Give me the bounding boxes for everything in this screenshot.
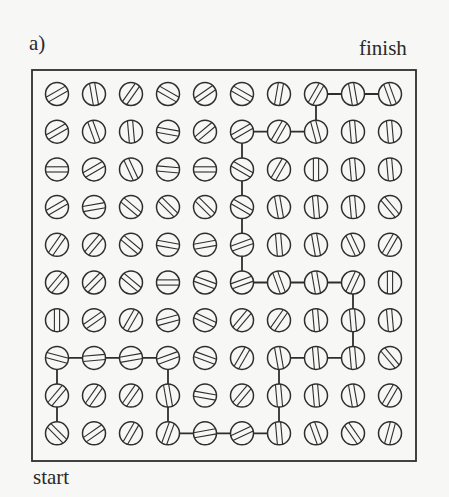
rotor-cell (120, 346, 143, 369)
rotor-cell (157, 271, 180, 294)
rotor-cell (379, 309, 402, 332)
rotor-cell (231, 158, 254, 181)
rotor-cell (83, 233, 106, 256)
rotor-cell (157, 346, 180, 369)
rotor-cell (268, 158, 291, 181)
rotor-cell (268, 309, 291, 332)
rotor-cell (157, 309, 180, 332)
rotor-cell (157, 158, 180, 181)
rotor-cell (231, 83, 254, 106)
rotor-cell (342, 83, 365, 106)
rotor-cell (120, 233, 143, 256)
rotor-cell (120, 271, 143, 294)
rotor-cell (46, 384, 69, 407)
rotor-cell (83, 346, 106, 369)
rotor-cell (268, 271, 291, 294)
rotor-cell (120, 196, 143, 219)
rotor-cell (46, 422, 69, 445)
rotor-cell (379, 271, 402, 294)
grid-diagram (0, 0, 449, 497)
rotor-cell (305, 196, 328, 219)
rotor-cell (157, 120, 180, 143)
rotor-cell (268, 196, 291, 219)
rotor-cell (379, 233, 402, 256)
rotor-cell (157, 422, 180, 445)
rotor-cell (120, 83, 143, 106)
rotor-cell (268, 384, 291, 407)
rotor-cell (194, 309, 217, 332)
rotor-cell (305, 422, 328, 445)
rotor-cell (231, 346, 254, 369)
rotor-cell (231, 309, 254, 332)
rotor-cell (194, 158, 217, 181)
rotor-cell (305, 309, 328, 332)
rotor-cell (342, 233, 365, 256)
rotor-cell (305, 384, 328, 407)
rotor-cell (83, 120, 106, 143)
rotor-cell (83, 158, 106, 181)
rotor-cell (46, 271, 69, 294)
rotor-cell (157, 384, 180, 407)
rotor-cell (46, 120, 69, 143)
rotor-cell (120, 384, 143, 407)
rotor-cell (194, 120, 217, 143)
rotor-cell (305, 271, 328, 294)
rotor-cell (231, 233, 254, 256)
rotor-cell (268, 120, 291, 143)
rotor-cell (46, 233, 69, 256)
rotor-cell (194, 196, 217, 219)
rotor-cell (305, 83, 328, 106)
rotor-cell (157, 233, 180, 256)
rotor-cell (379, 120, 402, 143)
rotor-cell (83, 384, 106, 407)
figure-stage: a) finish start (0, 0, 449, 497)
rotor-cell (305, 346, 328, 369)
rotor-cell (120, 422, 143, 445)
rotor-cell (120, 309, 143, 332)
rotor-cell (379, 346, 402, 369)
rotor-cell (342, 346, 365, 369)
rotor-cell (342, 422, 365, 445)
rotor-cell (46, 309, 69, 332)
rotor-cell (46, 83, 69, 106)
rotor-cell (268, 233, 291, 256)
rotor-cell (342, 120, 365, 143)
rotor-cell (231, 120, 254, 143)
rotor-cell (268, 422, 291, 445)
rotor-cell (305, 120, 328, 143)
rotor-cell (305, 233, 328, 256)
rotor-cell (231, 196, 254, 219)
rotor-cell (194, 422, 217, 445)
rotor-cell (342, 196, 365, 219)
rotor-cell (83, 422, 106, 445)
rotor-cell (231, 384, 254, 407)
rotor-cell (194, 271, 217, 294)
rotor-cell (46, 196, 69, 219)
path-lines (57, 94, 390, 433)
rotor-cell (83, 271, 106, 294)
rotor-cell (231, 271, 254, 294)
rotor-cell (157, 196, 180, 219)
rotor-cell (342, 158, 365, 181)
rotor-cell (157, 83, 180, 106)
rotor-cell (379, 422, 402, 445)
rotor-cell (194, 233, 217, 256)
rotor-cell (231, 422, 254, 445)
rotor-cell (342, 309, 365, 332)
rotor-cell (194, 83, 217, 106)
rotor-cell (305, 158, 328, 181)
rotor-cell (46, 346, 69, 369)
rotor-cell (342, 271, 365, 294)
rotor-cell (342, 384, 365, 407)
rotor-cell (379, 196, 402, 219)
rotor-cell (120, 120, 143, 143)
rotor-cell (379, 384, 402, 407)
rotor-cell (46, 158, 69, 181)
rotor-cell (268, 346, 291, 369)
rotor-cell (83, 196, 106, 219)
rotor-cell (379, 158, 402, 181)
rotor-cell (83, 83, 106, 106)
rotor-cell (120, 158, 143, 181)
rotor-cell (268, 83, 291, 106)
rotor-cell (194, 384, 217, 407)
